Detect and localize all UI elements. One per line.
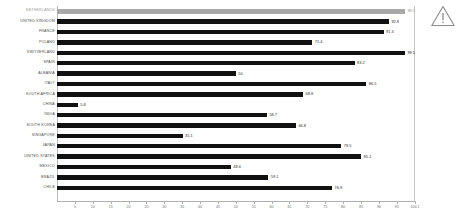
bar xyxy=(57,71,236,75)
bar-track: 71.4 xyxy=(57,37,415,47)
bar-track: 66.8 xyxy=(57,120,415,130)
x-axis: 5101520253035404550556065707580859095100… xyxy=(57,201,415,221)
bar xyxy=(57,123,296,127)
bar-value-label: 71.4 xyxy=(315,40,323,44)
x-axis-tick xyxy=(75,201,76,204)
x-axis-tick-label: 65 xyxy=(287,206,291,210)
bar-value-label: 76.9 xyxy=(335,186,343,190)
x-axis-tick xyxy=(182,201,183,204)
bar-track: 91.3 xyxy=(57,27,415,37)
bar-row: ITALY86.5 xyxy=(0,79,461,89)
x-axis-tick-label: 95 xyxy=(395,206,399,210)
x-axis-tick-label: 35 xyxy=(180,206,184,210)
x-axis-tick-label: 45 xyxy=(216,206,220,210)
x-axis-tick xyxy=(93,201,94,204)
bar-category-label: UNITED STATES xyxy=(0,155,57,159)
x-axis-tick xyxy=(325,201,326,204)
bar-track: 68.8 xyxy=(57,89,415,99)
x-axis-tick xyxy=(361,201,362,204)
bar xyxy=(57,154,361,158)
bar-value-label: 50 xyxy=(238,72,242,76)
x-axis-tick xyxy=(272,201,273,204)
x-axis-tick-label: 85 xyxy=(359,206,363,210)
bar-track: 58.7 xyxy=(57,110,415,120)
bar-value-label: 92.8 xyxy=(391,20,399,24)
bar-category-label: UNITED KINGDOM xyxy=(0,20,57,24)
bar xyxy=(57,165,231,169)
bar-row: SOUTH KOREA66.8 xyxy=(0,120,461,130)
bar-track: 35.1 xyxy=(57,131,415,141)
bar-track: 50 xyxy=(57,68,415,78)
bar xyxy=(57,113,267,117)
bar-category-label: MEXICO xyxy=(0,165,57,169)
bar-track: 48.6 xyxy=(57,162,415,172)
bar-track: 99.5 xyxy=(57,48,415,58)
bar-value-label: 79.5 xyxy=(344,144,352,148)
x-axis-tick xyxy=(379,201,380,204)
bar-category-label: SINGAPORE xyxy=(0,134,57,138)
bar xyxy=(57,144,341,148)
bar-category-label: SPAIN xyxy=(0,61,57,65)
bar-row: ALBANIA50 xyxy=(0,68,461,78)
bar-row: CHINA5.8 xyxy=(0,100,461,110)
bar-category-label: NETHERLANDS xyxy=(0,9,57,13)
bar-category-label: SOUTH AFRICA xyxy=(0,93,57,97)
bar-category-label: INDIA xyxy=(0,113,57,117)
x-axis-tick-label: 5 xyxy=(74,206,76,210)
bar-row: FRANCE91.3 xyxy=(0,27,461,37)
bar xyxy=(57,103,78,107)
bar-row: CHILE76.9 xyxy=(0,183,461,193)
bar-track: 79.5 xyxy=(57,141,415,151)
bar-value-label: 99.5 xyxy=(407,51,415,55)
bar-track: 99.1 xyxy=(57,6,415,16)
bar-category-label: JAPAN xyxy=(0,144,57,148)
bar-value-label: 66.8 xyxy=(298,124,306,128)
bar-track: 86.5 xyxy=(57,79,415,89)
bar-value-label: 99.1 xyxy=(407,9,415,13)
bar-value-label: 35.1 xyxy=(185,134,193,138)
bar-track: 5.8 xyxy=(57,100,415,110)
bar-value-label: 59.1 xyxy=(271,175,279,179)
bar xyxy=(57,40,312,44)
bar-category-label: ALBANIA xyxy=(0,72,57,76)
x-axis-tick-label: 50 xyxy=(234,206,238,210)
x-axis-tick xyxy=(146,201,147,204)
x-axis-tick-label: 80 xyxy=(341,206,345,210)
bar-value-label: 5.8 xyxy=(80,103,85,107)
bar-category-label: ITALY xyxy=(0,82,57,86)
x-axis-tick-label: 20 xyxy=(127,206,131,210)
x-axis-tick-label: 10 xyxy=(91,206,95,210)
bar-row: SPAIN83.2 xyxy=(0,58,461,68)
bar xyxy=(57,9,405,14)
x-axis-tick-label: 100.1 xyxy=(411,206,420,210)
warning-triangle-icon[interactable] xyxy=(430,4,456,28)
x-axis-tick xyxy=(200,201,201,204)
bar-track: 83.2 xyxy=(57,58,415,68)
bar xyxy=(57,134,183,138)
bar xyxy=(57,175,268,179)
bar-track: 92.8 xyxy=(57,16,415,26)
x-axis-tick xyxy=(218,201,219,204)
bar-category-label: FRANCE xyxy=(0,30,57,34)
x-axis-tick xyxy=(254,201,255,204)
x-axis-tick xyxy=(129,201,130,204)
bar-row: UNITED STATES85.1 xyxy=(0,151,461,161)
bar-category-label: CHILE xyxy=(0,186,57,190)
x-axis-tick-label: 15 xyxy=(109,206,113,210)
bar-value-label: 86.5 xyxy=(369,82,377,86)
bar-row: INDIA58.7 xyxy=(0,110,461,120)
x-axis-tick-label: 30 xyxy=(162,206,166,210)
x-axis-tick xyxy=(111,201,112,204)
bar xyxy=(57,82,366,86)
x-axis-tick xyxy=(415,201,416,204)
bar xyxy=(57,186,332,190)
bar xyxy=(57,61,355,65)
bar-track: 76.9 xyxy=(57,183,415,193)
bar-row: BRAZIL59.1 xyxy=(0,172,461,182)
bar-value-label: 91.3 xyxy=(386,30,394,34)
bar-row: SOUTH AFRICA68.8 xyxy=(0,89,461,99)
bar-value-label: 58.7 xyxy=(269,113,277,117)
x-axis-tick-label: 55 xyxy=(252,206,256,210)
x-axis-tick-label: 25 xyxy=(144,206,148,210)
bar-row: POLAND71.4 xyxy=(0,37,461,47)
